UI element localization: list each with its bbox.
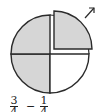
fraction-one-quarter: 1 4 [40,96,48,112]
quarter-top-left [11,15,50,54]
quarter-bottom-left [11,54,50,93]
minus-operator: − [26,100,35,112]
arrow-up-right-icon [85,8,94,18]
denominator: 4 [40,107,48,112]
denominator: 4 [10,107,18,112]
fraction-three-quarters: 3 4 [10,96,18,112]
quarter-bottom-right [50,54,89,93]
